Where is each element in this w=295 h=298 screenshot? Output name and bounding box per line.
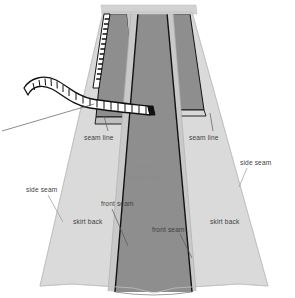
label-side-seam-right: side seam <box>240 159 272 166</box>
label-skirt-back-right: skirt back <box>210 218 240 225</box>
sewing-diagram-figure: seam line seam line skirt front (wrong s… <box>0 0 295 298</box>
skirt-diagram-svg: seam line seam line skirt front (wrong s… <box>0 0 295 298</box>
label-seam-line-left: seam line <box>84 134 114 141</box>
label-front-seam-left: front seam <box>101 200 134 207</box>
label-front-seam-right: front seam <box>152 226 185 233</box>
label-seam-line-right: seam line <box>189 134 219 141</box>
label-skirt-front: skirt front <box>129 164 158 171</box>
label-side-seam-left: side seam <box>26 186 58 193</box>
waistband-strip <box>101 5 197 14</box>
label-skirt-back-left: skirt back <box>73 218 103 225</box>
label-skirt-front-note: (wrong side) <box>125 174 163 182</box>
